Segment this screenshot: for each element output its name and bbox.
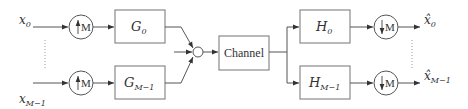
upsampler-label: M	[81, 21, 91, 33]
downsampler-last: M	[374, 71, 398, 95]
input-label-0: x0	[19, 13, 31, 29]
analysis-filter-0: H0	[300, 10, 350, 43]
downsampler-0: M	[374, 15, 398, 39]
upsampler-last: M	[69, 71, 93, 95]
downsampler-label: M	[385, 21, 395, 33]
synthesis-filter-0: G0	[115, 10, 165, 43]
upsampler-label: M	[81, 77, 91, 89]
analysis-filter-last: HM−1	[300, 66, 350, 99]
upsampler-0: M	[69, 15, 93, 39]
input-label-last: xM−1	[19, 92, 46, 108]
adder-node	[193, 47, 203, 57]
filter-bank-diagram: x0 xM−1 M M G0 GM−1 Channel H	[0, 0, 468, 109]
wire-g0-adder	[165, 27, 193, 48]
output-label-last: x̂M−1	[424, 69, 451, 85]
channel-label: Channel	[224, 46, 265, 60]
synthesis-filter-last: GM−1	[115, 66, 165, 99]
output-label-0: x̂0	[424, 13, 436, 29]
wire-glast-adder	[165, 57, 193, 83]
channel-block: Channel	[219, 36, 269, 70]
downsampler-label: M	[385, 77, 395, 89]
